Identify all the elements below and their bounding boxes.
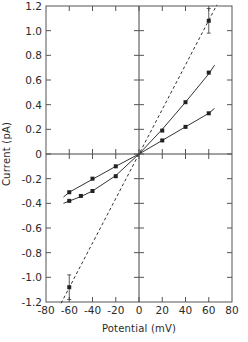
y-tick-label: -1.0 (22, 271, 43, 283)
data-point-marker (207, 19, 211, 23)
data-point-marker (184, 125, 188, 129)
data-point-marker (67, 190, 71, 194)
y-tick-label: 1.0 (25, 25, 42, 37)
y-axis-title: Current (pA) (1, 122, 12, 186)
data-point-marker (67, 285, 71, 289)
y-tick-labels: -1.2-1.0-0.8-0.6-0.4-0.200.20.40.60.81.0… (22, 0, 43, 308)
x-tick-label: 40 (179, 304, 192, 316)
data-point-marker (160, 138, 164, 142)
x-tick-label: 60 (202, 304, 215, 316)
y-tick-label: 0 (35, 148, 42, 160)
y-tick-label: -0.2 (22, 173, 43, 185)
data-point-marker (114, 174, 118, 178)
x-tick-label: 80 (225, 304, 238, 316)
data-point-marker (207, 111, 211, 115)
data-point-marker (79, 194, 83, 198)
data-point-marker (160, 129, 164, 133)
y-tick-label: 0.2 (25, 123, 42, 135)
x-tick-label: 0 (136, 304, 143, 316)
y-tick-label: -0.6 (22, 222, 43, 234)
data-point-marker (91, 189, 95, 193)
y-tick-label: -0.4 (22, 197, 43, 209)
data-point-marker (184, 100, 188, 104)
x-tick-labels: -80-60-40-20020406080 (37, 304, 238, 316)
y-tick-label: -0.8 (22, 247, 43, 259)
x-axis-title: Potential (mV) (102, 323, 176, 334)
iv-chart: -1.2-1.0-0.8-0.6-0.4-0.200.20.40.60.81.0… (0, 0, 248, 342)
data-point-marker (114, 164, 118, 168)
x-tick-label: -60 (61, 304, 78, 316)
data-point-marker (67, 199, 71, 203)
data-point-marker (91, 177, 95, 181)
x-tick-label: -40 (84, 304, 101, 316)
y-tick-label: 1.2 (25, 0, 42, 12)
y-tick-label: 0.6 (25, 74, 42, 86)
x-tick-label: -80 (37, 304, 54, 316)
x-tick-label: 20 (156, 304, 169, 316)
y-tick-label: 0.8 (25, 49, 42, 61)
data-point-marker (207, 71, 211, 75)
y-tick-label: 0.4 (25, 99, 42, 111)
x-tick-label: -20 (107, 304, 124, 316)
